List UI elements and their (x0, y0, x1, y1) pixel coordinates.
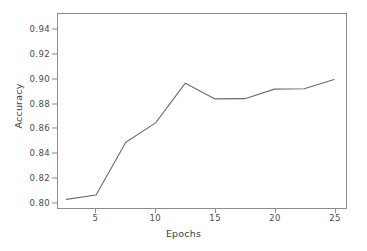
x-axis-tick-label: 15 (209, 213, 221, 223)
chart-figure: 0.800.820.840.860.880.900.920.94 Accurac… (0, 0, 367, 251)
x-axis-tick-mark (215, 208, 216, 213)
y-axis-tick-labels: 0.800.820.840.860.880.900.920.94 (0, 0, 50, 251)
y-axis-tick-mark (52, 128, 57, 129)
x-axis-tick-mark (95, 208, 96, 213)
y-axis-label-wrap: Accuracy (11, 0, 25, 251)
y-axis-tick-label: 0.94 (29, 24, 50, 34)
plot-area (57, 13, 347, 209)
y-axis-tick-mark (52, 103, 57, 104)
y-axis-tick-mark (52, 78, 57, 79)
y-axis-tick-label: 0.80 (29, 198, 50, 208)
y-axis-tick-mark (52, 53, 57, 54)
y-axis-tick-label: 0.90 (29, 74, 50, 84)
x-axis-tick-label: 10 (149, 213, 161, 223)
y-axis-label: Accuracy (13, 84, 24, 129)
x-axis-tick-mark (275, 208, 276, 213)
x-axis-label: Epochs (0, 228, 367, 239)
x-axis-tick-mark (335, 208, 336, 213)
y-axis-tick-label: 0.92 (29, 49, 50, 59)
y-axis-tick-mark (52, 203, 57, 204)
y-axis-tick-mark (52, 153, 57, 154)
y-axis-tick-label: 0.84 (29, 148, 50, 158)
x-axis-tick-label: 25 (329, 213, 341, 223)
y-axis-tick-label: 0.88 (29, 99, 50, 109)
y-axis-tick-label: 0.82 (29, 173, 50, 183)
accuracy-line-series (58, 14, 346, 208)
y-axis-tick-label: 0.86 (29, 123, 50, 133)
y-axis-tick-mark (52, 178, 57, 179)
x-axis-tick-mark (155, 208, 156, 213)
x-axis-tick-label: 20 (269, 213, 281, 223)
x-axis-tick-label: 5 (92, 213, 98, 223)
y-axis-tick-mark (52, 28, 57, 29)
